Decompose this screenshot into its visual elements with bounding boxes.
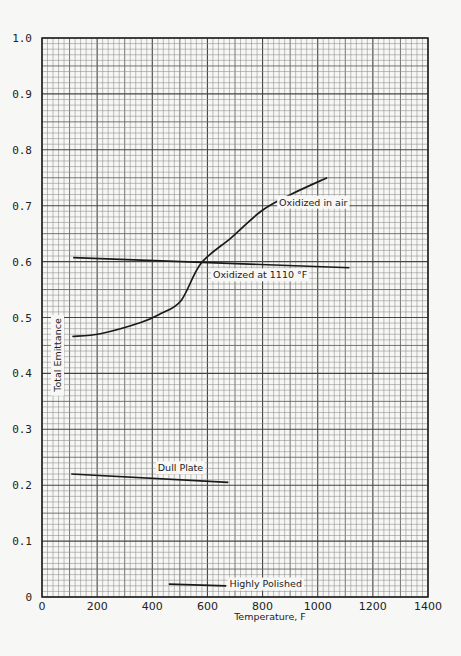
annotations: Oxidized in airOxidized at 1110 °FDull P… xyxy=(156,196,350,591)
x-tick-label: 200 xyxy=(87,600,108,613)
chart-grid xyxy=(42,38,428,597)
series-annotation: Dull Plate xyxy=(158,462,204,473)
y-tick-label: 0.4 xyxy=(12,367,32,380)
series-annotation: Oxidized at 1110 °F xyxy=(213,269,307,280)
y-tick-label: 0.3 xyxy=(12,423,32,436)
y-tick-label: 0.8 xyxy=(12,144,32,157)
x-tick-label: 1000 xyxy=(304,600,332,613)
y-tick-label: 0 xyxy=(25,591,32,604)
x-tick-label: 1400 xyxy=(414,600,442,613)
data-series xyxy=(71,178,349,586)
series-line xyxy=(71,474,228,482)
series-line xyxy=(73,258,349,268)
y-tick-label: 0.5 xyxy=(12,312,32,325)
y-tick-label: 0.9 xyxy=(12,88,32,101)
y-tick-label: 0.2 xyxy=(12,479,32,492)
emittance-chart: 00.10.20.30.40.50.60.70.80.91.0 02004006… xyxy=(0,0,461,656)
series-annotation: Highly Polished xyxy=(229,578,301,589)
x-tick-label: 600 xyxy=(197,600,218,613)
y-tick-label: 0.6 xyxy=(12,256,32,269)
series-annotation: Oxidized in air xyxy=(279,197,347,208)
x-tick-label: 1200 xyxy=(359,600,387,613)
x-tick-label: 400 xyxy=(142,600,163,613)
y-axis-label: Total Emittance xyxy=(51,315,64,396)
y-axis-ticks: 00.10.20.30.40.50.60.70.80.91.0 xyxy=(12,32,32,604)
x-axis-label: Temperature, F xyxy=(233,611,306,622)
x-tick-label: 0 xyxy=(39,600,46,613)
y-tick-label: 1.0 xyxy=(12,32,32,45)
y-tick-label: 0.1 xyxy=(12,535,32,548)
y-tick-label: 0.7 xyxy=(12,200,32,213)
y-axis-label-text: Total Emittance xyxy=(52,318,63,393)
